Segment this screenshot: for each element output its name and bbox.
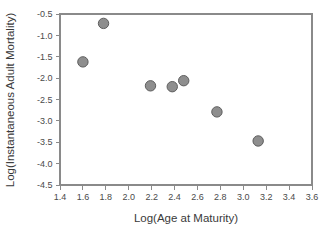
x-tick-label: 3.2: [260, 192, 273, 202]
x-tick-label: 2.2: [145, 192, 158, 202]
data-point-marker: [179, 75, 189, 85]
y-tick-label: -4.0: [37, 159, 53, 169]
y-tick-label: -4.5: [37, 180, 53, 190]
x-tick-label: 3.4: [283, 192, 296, 202]
x-tick-label: 2.8: [214, 192, 227, 202]
data-point-marker: [145, 81, 155, 91]
y-tick-label: -3.5: [37, 137, 53, 147]
y-axis-title: Log(Instantaneous Adult Mortality): [4, 13, 16, 188]
data-point-marker: [253, 136, 263, 146]
data-point-marker: [78, 57, 88, 67]
y-tick-label: -1.5: [37, 52, 53, 62]
x-tick-label: 2.0: [122, 192, 135, 202]
scatter-plot-figure: 1.41.61.82.02.22.42.62.83.03.23.43.6 -0.…: [0, 0, 332, 234]
x-tick-label: 3.6: [306, 192, 319, 202]
data-point-marker: [98, 18, 108, 28]
x-axis-title: Log(Age at Maturity): [134, 212, 238, 224]
y-tick-label: -2.5: [37, 95, 53, 105]
x-tick-label: 1.4: [54, 192, 67, 202]
data-point-marker: [167, 81, 177, 91]
data-point-marker: [212, 107, 222, 117]
y-tick-label: -2.0: [37, 73, 53, 83]
y-tick-label: -0.5: [37, 9, 53, 19]
y-tick-label: -1.0: [37, 31, 53, 41]
x-tick-label: 2.6: [191, 192, 204, 202]
y-tick-label: -3.0: [37, 116, 53, 126]
x-tick-label: 1.6: [77, 192, 90, 202]
x-tick-label: 2.4: [168, 192, 181, 202]
x-tick-label: 3.0: [237, 192, 250, 202]
x-tick-label: 1.8: [100, 192, 113, 202]
y-axis-tick-labels: -0.5-1.0-1.5-2.0-2.5-3.0-3.5-4.0-4.5: [37, 9, 53, 190]
